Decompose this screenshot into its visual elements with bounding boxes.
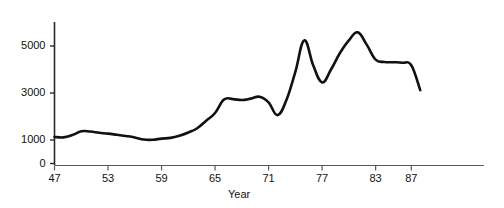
y-tick-label: 1000: [0, 133, 46, 145]
series-line-value: [55, 32, 421, 140]
x-tick-label: 47: [35, 172, 75, 184]
x-tick-label: 77: [302, 172, 342, 184]
x-tick-label: 59: [142, 172, 182, 184]
x-tick-label: 83: [356, 172, 396, 184]
x-tick-label: 87: [391, 172, 431, 184]
x-axis-ticks: [55, 166, 412, 171]
x-tick-label: 65: [195, 172, 235, 184]
x-tick-label: 53: [88, 172, 128, 184]
y-tick-label: 3000: [0, 86, 46, 98]
line-chart: 0100030005000 4753596571778387 Year: [0, 0, 504, 208]
y-tick-label: 0: [0, 157, 46, 169]
y-tick-label: 5000: [0, 39, 46, 51]
x-axis-title: Year: [228, 188, 250, 200]
x-tick-label: 71: [249, 172, 289, 184]
